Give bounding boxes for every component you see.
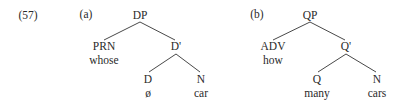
tree-b-branch-complement: [346, 54, 376, 72]
tree-b-spec-word: how: [263, 54, 284, 66]
tree-a-head-word: ø: [145, 87, 151, 99]
tree-b-complement-word: cars: [368, 87, 387, 99]
tree-b-root-node: QP: [303, 9, 318, 21]
tree-a-root-node: DP: [133, 9, 148, 21]
tree-b-complement-category: N: [373, 73, 382, 85]
tree-a-complement-word: car: [194, 87, 208, 99]
tree-a-branch-bar: [140, 22, 175, 40]
tree-a-label: (a): [80, 8, 93, 21]
tree-a-branch-head: [149, 54, 176, 72]
example-number: (57): [18, 9, 37, 22]
syntax-tree-diagram: (57) (a) DP PRN whose D' D ø N car (b) Q…: [0, 0, 399, 106]
tree-b: (b) QP ADV how Q' Q many N cars: [250, 8, 386, 100]
tree-a-spec-word: whose: [89, 54, 118, 66]
tree-a: (a) DP PRN whose D' D ø N car: [80, 8, 209, 99]
tree-b-head-word: many: [304, 87, 330, 100]
tree-b-head-category: Q: [313, 73, 322, 85]
tree-b-bar-node: Q': [341, 40, 351, 52]
tree-a-branch-complement: [176, 54, 200, 72]
tree-a-head-category: D: [144, 73, 152, 85]
tree-a-complement-category: N: [197, 73, 206, 85]
tree-a-bar-node: D': [171, 40, 181, 52]
tree-b-branch-head: [318, 54, 346, 72]
tree-a-spec-category: PRN: [93, 40, 116, 52]
tree-b-label: (b): [250, 8, 264, 21]
tree-b-branch-spec: [273, 22, 310, 40]
tree-b-spec-category: ADV: [261, 40, 287, 52]
tree-a-branch-spec: [104, 22, 140, 40]
tree-b-branch-bar: [310, 22, 345, 40]
